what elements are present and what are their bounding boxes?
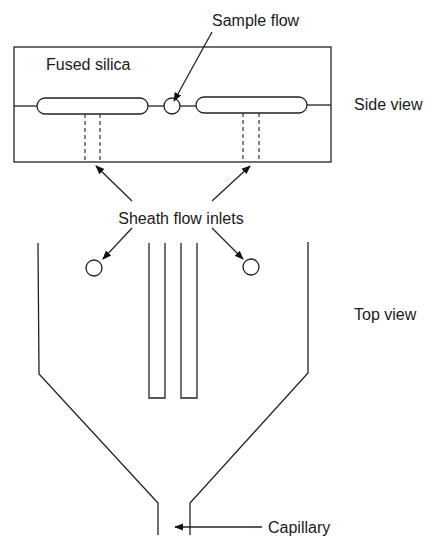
capillary-label: Capillary [268,519,330,536]
sheath-arrow-top-right [212,228,243,259]
top-view-label: Top view [354,306,417,323]
top-view: Top view [38,242,417,535]
funnel-wall-right [190,242,308,535]
sample-flow-arrow [174,32,212,101]
sample-flow-label: Sample flow [212,12,300,29]
sheath-arrow-top-left [103,228,132,259]
sheath-arrow-side-right [212,166,250,201]
sheath-channel-right [196,97,307,113]
sheath-inlet-left [86,260,102,276]
sheath-channel-left [37,98,148,114]
funnel-wall-left [38,243,158,535]
sheath-arrow-side-left [96,166,132,201]
sample-channel-circle [164,98,180,114]
sheath-inlet-right [243,259,259,275]
sheath-flow-inlets-label: Sheath flow inlets [118,210,243,227]
fused-silica-label: Fused silica [46,56,131,73]
channel-right [181,243,197,398]
channel-left [149,243,165,398]
side-view-label: Side view [354,96,423,113]
side-view: Fused silica Side view [14,47,423,162]
flow-cell-diagram: Fused silica Side view Sample flow Sheat… [0,0,437,547]
